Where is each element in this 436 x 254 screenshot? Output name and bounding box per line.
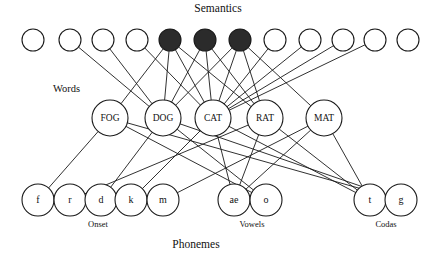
node-CAT[interactable]: CAT xyxy=(195,100,231,136)
edge-s8-CAT xyxy=(224,49,268,104)
edge-s5-RAT xyxy=(179,47,252,107)
node-label: m xyxy=(159,194,167,205)
edge-s5-FOG xyxy=(121,49,163,104)
inactive-unit-circle[interactable] xyxy=(332,29,354,51)
edge-s6-CAT xyxy=(206,51,211,100)
node-label: MAT xyxy=(314,113,334,123)
edge-s6-RAT xyxy=(212,49,254,104)
edge-s4-CAT xyxy=(145,48,201,105)
semantics-title: Semantics xyxy=(194,2,242,14)
inactive-unit-circle[interactable] xyxy=(299,29,321,51)
node-s3[interactable] xyxy=(92,29,114,51)
node-label: FOG xyxy=(100,113,119,123)
node-o[interactable]: o xyxy=(250,184,282,216)
node-t[interactable]: t xyxy=(354,184,386,216)
node-k[interactable]: k xyxy=(115,184,147,216)
node-label: o xyxy=(264,194,269,205)
edge-CAT-t xyxy=(229,126,356,192)
edge-s5-DOG xyxy=(165,51,169,100)
node-f[interactable]: f xyxy=(22,184,54,216)
edge-DOG-d xyxy=(111,132,152,187)
node-s2[interactable] xyxy=(59,29,81,51)
node-s9[interactable] xyxy=(299,29,321,51)
edge-MAT-m xyxy=(177,126,308,193)
nodes-group: FOGDOGCATRATMATfrdkmaeotg xyxy=(22,29,419,216)
node-FOG[interactable]: FOG xyxy=(92,100,128,136)
node-DOG[interactable]: DOG xyxy=(145,100,181,136)
node-m[interactable]: m xyxy=(147,184,179,216)
inactive-unit-circle[interactable] xyxy=(126,29,148,51)
active-unit-circle[interactable] xyxy=(229,29,251,51)
node-s11[interactable] xyxy=(364,29,386,51)
node-label: t xyxy=(369,194,372,205)
node-g[interactable]: g xyxy=(385,184,417,216)
edge-FOG-f xyxy=(49,132,99,188)
node-s8[interactable] xyxy=(264,29,286,51)
node-s12[interactable] xyxy=(397,29,419,51)
active-unit-circle[interactable] xyxy=(159,29,181,51)
edge-s11-CAT xyxy=(229,45,365,110)
inactive-unit-circle[interactable] xyxy=(22,29,44,51)
vowels-group-label: Vowels xyxy=(240,219,265,229)
inactive-unit-circle[interactable] xyxy=(364,29,386,51)
edge-s7-DOG xyxy=(176,48,233,105)
edge-s3-DOG xyxy=(110,49,152,104)
node-ae[interactable]: ae xyxy=(218,184,250,216)
edge-CAT-ae xyxy=(217,135,230,184)
edge-MAT-ae xyxy=(246,130,311,189)
node-s5[interactable] xyxy=(159,29,181,51)
inactive-unit-circle[interactable] xyxy=(264,29,286,51)
edge-s6-DOG xyxy=(172,50,200,102)
node-MAT[interactable]: MAT xyxy=(306,100,342,136)
node-label: k xyxy=(129,194,134,205)
edge-s9-CAT xyxy=(227,47,301,107)
edge-s10-CAT xyxy=(228,46,333,109)
network-canvas: FOGDOGCATRATMATfrdkmaeotg Semantics Word… xyxy=(0,0,436,254)
inactive-unit-circle[interactable] xyxy=(92,29,114,51)
edge-FOG-o xyxy=(126,126,252,192)
node-s1[interactable] xyxy=(22,29,44,51)
node-label: DOG xyxy=(153,113,174,123)
node-label: RAT xyxy=(256,113,274,123)
active-unit-circle[interactable] xyxy=(194,29,216,51)
node-s7[interactable] xyxy=(229,29,251,51)
inactive-unit-circle[interactable] xyxy=(59,29,81,51)
network-diagram: FOGDOGCATRATMATfrdkmaeotg Semantics Word… xyxy=(0,0,436,254)
node-s6[interactable] xyxy=(194,29,216,51)
words-title: Words xyxy=(53,83,80,94)
node-r[interactable]: r xyxy=(54,184,86,216)
edge-s7-CAT xyxy=(219,50,237,101)
node-label: d xyxy=(99,194,104,205)
node-label: g xyxy=(399,194,404,205)
codas-group-label: Codas xyxy=(375,219,396,229)
node-label: CAT xyxy=(204,113,222,123)
node-label: ae xyxy=(230,194,239,205)
node-RAT[interactable]: RAT xyxy=(247,100,283,136)
node-s4[interactable] xyxy=(126,29,148,51)
edge-RAT-t xyxy=(279,129,357,190)
node-s10[interactable] xyxy=(332,29,354,51)
inactive-unit-circle[interactable] xyxy=(397,29,419,51)
phonemes-title: Phonemes xyxy=(172,238,220,250)
node-d[interactable]: d xyxy=(85,184,117,216)
onset-group-label: Onset xyxy=(88,219,108,229)
edge-s2-DOG xyxy=(78,47,149,106)
